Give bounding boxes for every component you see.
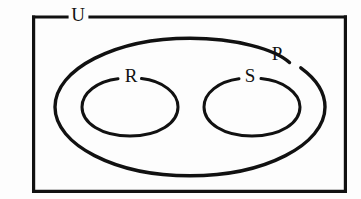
label-universe: U [71,4,85,25]
outer-ellipse-main-arc [55,38,325,176]
venn-diagram: U P R S [0,0,361,199]
left-ellipse-main-arc [82,79,178,136]
right-ellipse-main-arc [204,79,300,136]
outer-set-ellipse-p [55,38,325,176]
label-left-subset-r: R [125,65,138,86]
left-subset-ellipse-r [82,79,178,136]
right-subset-ellipse-s [204,79,300,136]
venn-diagram-canvas: U P R S [0,0,361,199]
label-right-subset-s: S [245,65,256,86]
label-outer-set-p: P [272,43,283,64]
